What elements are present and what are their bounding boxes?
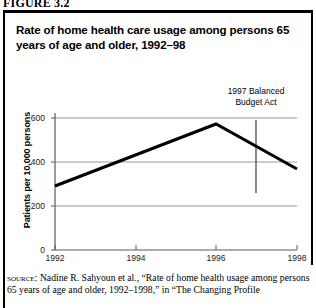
figure-page: FIGURE 3.2 Rate of home health care usag… bbox=[0, 0, 316, 308]
y-axis-title: Patients per 10,000 persons bbox=[22, 110, 32, 230]
y-tick-200: 200 bbox=[19, 201, 45, 211]
chart-plot-area: Patients per 10,000 persons 600 400 200 … bbox=[5, 13, 311, 265]
x-tick-1998: 1998 bbox=[277, 253, 316, 263]
annotation-budget-act: 1997 Balanced Budget Act bbox=[209, 86, 303, 108]
chart-axes bbox=[51, 113, 297, 250]
figure-frame: Rate of home health care usage among per… bbox=[3, 13, 313, 265]
chart-svg bbox=[5, 13, 311, 265]
x-tick-1994: 1994 bbox=[116, 253, 156, 263]
chart-gridlines bbox=[55, 118, 297, 206]
annotation-line-1: 1997 Balanced bbox=[209, 86, 303, 97]
source-note: SOURCE: Nadine R. Sahyoun et al., “Rate … bbox=[7, 272, 313, 297]
chart-data-line bbox=[55, 124, 297, 186]
frame-bottom-left-rule bbox=[3, 265, 5, 308]
annotation-line-2: Budget Act bbox=[209, 97, 303, 108]
y-tick-600: 600 bbox=[19, 113, 45, 123]
source-label: SOURCE: bbox=[7, 272, 37, 283]
source-text: Nadine R. Sahyoun et al., “Rate of home … bbox=[7, 272, 309, 295]
y-tick-400: 400 bbox=[19, 157, 45, 167]
x-tick-1996: 1996 bbox=[196, 253, 236, 263]
x-tick-1992: 1992 bbox=[35, 253, 75, 263]
